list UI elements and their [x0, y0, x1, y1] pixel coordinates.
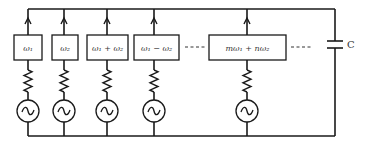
frequency-label: ω₁: [23, 44, 33, 53]
circuit-diagram: C ω₁ω₂ω₁ + ω₂ω₁ − ω₂mω₁ + nω₂: [0, 0, 366, 145]
branch: ω₁ − ω₂: [134, 9, 179, 136]
resistor-icon: [60, 70, 68, 92]
frequency-label: ω₁ + ω₂: [92, 44, 123, 53]
branches: ω₁ω₂ω₁ + ω₂ω₁ − ω₂mω₁ + nω₂: [14, 9, 286, 136]
resistor-icon: [24, 70, 32, 92]
resistor-icon: [103, 70, 111, 92]
capacitor-label: C: [347, 39, 355, 50]
frequency-label: ω₁ − ω₂: [141, 44, 172, 53]
resistor-icon: [150, 70, 158, 92]
frequency-label: ω₂: [60, 44, 70, 53]
branch: ω₂: [52, 9, 78, 136]
branch: ω₁: [14, 9, 42, 136]
branch: ω₁ + ω₂: [87, 9, 128, 136]
frequency-label: mω₁ + nω₂: [226, 44, 270, 53]
branch: mω₁ + nω₂: [209, 9, 286, 136]
capacitor: C: [327, 9, 355, 136]
resistor-icon: [243, 70, 251, 92]
